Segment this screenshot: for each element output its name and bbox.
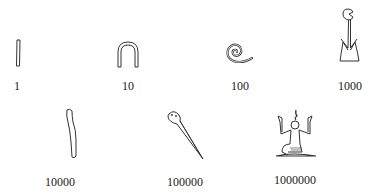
finger-icon — [64, 108, 80, 160]
coil-of-rope-icon — [224, 40, 254, 66]
tadpole-icon — [165, 110, 209, 162]
numeral-label-1000000: 1000000 — [274, 174, 316, 186]
numeral-label-10000: 10000 — [45, 176, 75, 188]
heh-god-icon — [272, 108, 320, 162]
numeral-label-1: 1 — [14, 80, 20, 92]
numeral-label-10: 10 — [122, 80, 134, 92]
numeral-label-100: 100 — [231, 80, 249, 92]
lotus-plant-icon — [336, 6, 364, 64]
numeral-label-1000: 1000 — [338, 80, 362, 92]
numeral-label-100000: 100000 — [167, 176, 203, 188]
stroke-icon — [14, 38, 24, 68]
heel-bone-icon — [116, 40, 140, 68]
